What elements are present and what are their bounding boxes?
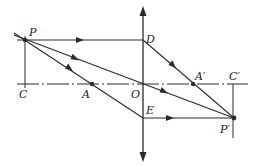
point-a [90,82,94,86]
ray-arrow-icon [65,64,73,72]
label-c: C [19,88,28,101]
point-p [23,38,27,42]
label-p-prime: P′ [219,123,230,136]
ray-p-through-a-to-e [14,33,143,118]
ray-arrow-icon [166,115,174,121]
label-d: D [145,33,155,46]
label-o: O [131,88,140,101]
label-a: A [81,88,90,101]
label-c-prime: C′ [229,70,240,83]
ray-arrow-icon [71,54,79,61]
lens-top-arrow-icon [140,6,147,16]
lens-bottom-arrow-icon [140,152,147,162]
label-p: P [28,26,37,39]
ray-d-to-p-prime [143,40,234,118]
ray-arrow-icon [169,60,177,68]
label-e: E [145,104,154,117]
point-p-prime [232,116,237,121]
ray-arrow-icon [76,37,84,43]
ray-diagram: P C A O D E A′ C′ P′ [0,0,260,167]
ray-arrow-icon [160,87,168,94]
label-a-prime: A′ [194,70,206,83]
